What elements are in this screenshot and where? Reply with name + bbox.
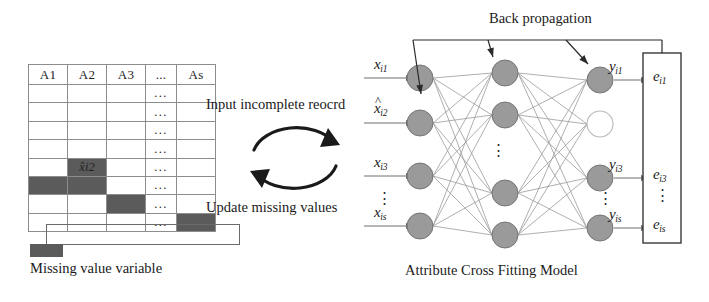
table-cell [177, 158, 216, 176]
table-cell [29, 195, 68, 213]
table-row: ... [29, 103, 216, 121]
table-row: ... [29, 85, 216, 103]
table-cell [107, 85, 146, 103]
output-label-yis: yis [609, 206, 622, 223]
hidden-node-1 [492, 60, 518, 86]
table-row: ... [29, 213, 216, 231]
column-header-a1: A1 [29, 65, 68, 85]
legend-label: Missing value variable [30, 260, 250, 277]
acfm-figure: A1 A2 A3 ... As ............x̂i2........… [0, 0, 709, 302]
table-body: ............x̂i2............ [29, 85, 216, 232]
input-arrows [364, 75, 411, 229]
table-row: ... [29, 176, 216, 194]
input-label-xi3: xi3 [374, 154, 388, 171]
output-layer-ellipsis: ⋮ [598, 196, 612, 200]
attribute-cross-fitting-model: xi1 ^xi2 xi3 xis ⋮ ⋮ yi1 yi3 yis ⋮ ei1 e… [360, 0, 709, 302]
table-row: x̂i2... [29, 158, 216, 176]
table-cell: ... [146, 121, 177, 139]
curved-arrow-right-icon [254, 128, 340, 150]
network-graph [360, 0, 709, 302]
table-row: ... [29, 195, 216, 213]
table-cell-missing [29, 176, 68, 194]
table-header-row: A1 A2 A3 ... As [29, 65, 216, 85]
column-header-ellipsis: ... [146, 65, 177, 85]
table-cell [68, 213, 107, 231]
table-cell: ... [146, 176, 177, 194]
input-label-xi2-hat: ^xi2 [374, 100, 388, 117]
table-cell: ... [146, 195, 177, 213]
back-propagation-arrows [413, 40, 662, 94]
table-cell: ... [146, 140, 177, 158]
table-cell-missing: x̂i2 [68, 158, 107, 176]
legend: Missing value variable [30, 244, 250, 277]
table-cell: ... [146, 158, 177, 176]
table-cell [29, 140, 68, 158]
table-cell [177, 140, 216, 158]
cycle-top-label: Input incomplete reocrd [206, 96, 345, 113]
table-row: ... [29, 121, 216, 139]
output-label-yi1: yi1 [609, 58, 623, 75]
table-cell [68, 121, 107, 139]
table-cell [177, 121, 216, 139]
hidden-node-3 [492, 180, 518, 206]
table-cell [68, 103, 107, 121]
model-caption: Attribute Cross Fitting Model [405, 262, 578, 279]
error-label-ei1: ei1 [653, 68, 667, 85]
curved-arrow-left-icon [250, 166, 336, 188]
network-edges [433, 73, 587, 235]
table-cell [107, 103, 146, 121]
output-node-2 [587, 111, 613, 137]
input-node-3 [407, 163, 433, 189]
hidden-node-4 [492, 222, 518, 248]
column-header-a2: A2 [68, 65, 107, 85]
table-cell [177, 176, 216, 194]
table-cell: ... [146, 85, 177, 103]
table-cell [107, 121, 146, 139]
table-cell [107, 158, 146, 176]
table-cell: ... [146, 103, 177, 121]
backprop-arrow-hidden-head [487, 47, 494, 57]
table-cell [29, 213, 68, 231]
table-cell [68, 140, 107, 158]
cycle-arrows [240, 118, 350, 198]
table-cell [29, 158, 68, 176]
input-layer-ellipsis: ⋮ [377, 196, 391, 200]
input-label-xis: xis [374, 204, 387, 221]
cycle-bottom-label: Update missing values [206, 199, 337, 216]
output-label-yi3: yi3 [609, 156, 623, 173]
input-node-4 [407, 213, 433, 239]
table-cell [68, 85, 107, 103]
table-cell [29, 121, 68, 139]
column-header-a3: A3 [107, 65, 146, 85]
hidden-node-2 [492, 102, 518, 128]
input-label-xi1: xi1 [374, 56, 388, 73]
table-cell [29, 85, 68, 103]
missing-value-table-panel: A1 A2 A3 ... As ............x̂i2........… [28, 64, 204, 232]
input-node-2 [407, 110, 433, 136]
error-label-ei3: ei3 [653, 166, 667, 183]
error-label-eis: eis [653, 216, 666, 233]
table-cell [29, 103, 68, 121]
table-cell [107, 176, 146, 194]
table-row: ... [29, 140, 216, 158]
attribute-data-table: A1 A2 A3 ... As ............x̂i2........… [28, 64, 216, 232]
hidden-layer-ellipsis: ⋮ [491, 148, 505, 152]
column-header-as: As [177, 65, 216, 85]
table-cell [68, 195, 107, 213]
table-cell [107, 213, 146, 231]
table-cell [107, 140, 146, 158]
table-cell: ... [146, 213, 177, 231]
missing-value-swatch-icon [30, 244, 63, 257]
table-cell-missing [68, 176, 107, 194]
table-cell-missing [107, 195, 146, 213]
error-box-ellipsis: ⋮ [655, 193, 669, 197]
